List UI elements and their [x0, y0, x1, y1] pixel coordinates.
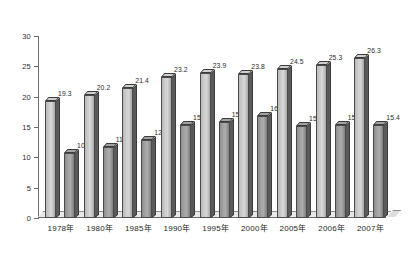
bar-side — [249, 70, 253, 218]
y-tick-mark — [34, 218, 39, 219]
value-label: 15.4 — [386, 114, 400, 121]
value-label: 19.3 — [58, 90, 72, 97]
bar-side — [327, 61, 331, 218]
bar-series-1-1985年: 21.4 — [122, 88, 133, 218]
bar-face — [180, 125, 191, 218]
x-axis-label: 1995年 — [202, 222, 229, 233]
bar-side — [95, 92, 99, 218]
bar-face — [200, 73, 211, 218]
value-label: 23.9 — [213, 62, 227, 69]
value-label: 24.5 — [290, 58, 304, 65]
y-tick-label: 20 — [22, 92, 31, 101]
value-label: 25.3 — [329, 54, 343, 61]
bar-group: 21.412.8 — [122, 36, 161, 218]
x-axis-label: 1990年 — [164, 222, 191, 233]
bar-face — [103, 147, 114, 218]
y-tick-label: 0 — [27, 214, 31, 223]
bar-series-1-2007年: 26.3 — [354, 58, 365, 218]
bar-series-2-2006年: 15.4 — [335, 125, 346, 218]
bar-series-2-2005年: 15.2 — [296, 126, 307, 218]
y-tick-mark — [34, 188, 39, 189]
bar-face — [257, 116, 268, 218]
y-tick-label: 30 — [22, 32, 31, 41]
bar-side — [56, 97, 60, 218]
bar-group: 23.816.8 — [238, 36, 277, 218]
bar-group: 25.315.4 — [316, 36, 355, 218]
bar-side — [211, 69, 215, 218]
bar-side — [172, 74, 176, 218]
bar-series-2-1995年: 15.8 — [219, 122, 230, 218]
bar-face — [161, 77, 172, 218]
bar-chart: 051015202530 19.310.720.211.721.412.823.… — [0, 0, 411, 256]
bar-series-1-1978年: 19.3 — [45, 101, 56, 218]
bar-face — [122, 88, 133, 218]
bar-series-1-1980年: 20.2 — [84, 95, 95, 218]
x-axis-label: 1985年 — [125, 222, 152, 233]
y-tick-label: 5 — [27, 183, 31, 192]
bar-series-2-2007年: 15.4 — [373, 125, 384, 218]
bar-series-1-2000年: 23.8 — [238, 74, 249, 218]
bar-face — [354, 58, 365, 218]
bar-series-2-1978年: 10.7 — [64, 153, 75, 218]
x-axis-label: 2007年 — [357, 222, 384, 233]
y-tick-mark — [34, 127, 39, 128]
x-axis-label: 1978年 — [48, 222, 75, 233]
bar-side — [268, 112, 272, 218]
bar-face — [316, 65, 327, 218]
y-tick-label: 10 — [22, 153, 31, 162]
bar-side — [191, 121, 195, 218]
bar-group: 19.310.7 — [45, 36, 84, 218]
bar-series-1-2006年: 25.3 — [316, 65, 327, 218]
bar-group: 20.211.7 — [84, 36, 123, 218]
bar-side — [133, 85, 137, 218]
bar-side — [230, 119, 234, 218]
bar-face — [141, 140, 152, 218]
bar-face — [64, 153, 75, 218]
bar-group: 24.515.2 — [277, 36, 316, 218]
bar-side — [384, 121, 388, 218]
bar-side — [365, 55, 369, 218]
y-tick-mark — [34, 97, 39, 98]
bar-series-1-1990年: 23.2 — [161, 77, 172, 218]
x-axis-label: 2005年 — [280, 222, 307, 233]
bar-side — [75, 149, 79, 218]
x-axis-label: 1980年 — [86, 222, 113, 233]
value-label: 26.3 — [367, 47, 381, 54]
y-tick-mark — [34, 36, 39, 37]
bar-side — [288, 66, 292, 218]
bar-face — [219, 122, 230, 218]
bar-group: 26.315.4 — [354, 36, 393, 218]
bar-series-1-1995年: 23.9 — [200, 73, 211, 218]
value-label: 20.2 — [97, 84, 111, 91]
bar-face — [296, 126, 307, 218]
bar-group: 23.215.4 — [161, 36, 200, 218]
y-tick-label: 15 — [22, 123, 31, 132]
x-axis-label: 2000年 — [241, 222, 268, 233]
y-tick-label: 25 — [22, 62, 31, 71]
bar-side — [152, 137, 156, 218]
y-tick-mark — [34, 157, 39, 158]
bar-series-2-2000年: 16.8 — [257, 116, 268, 218]
bar-face — [277, 69, 288, 218]
bar-face — [373, 125, 384, 218]
bar-face — [84, 95, 95, 218]
bar-side — [307, 122, 311, 218]
y-tick-mark — [34, 66, 39, 67]
bar-side — [346, 121, 350, 218]
bar-face — [238, 74, 249, 218]
bar-face — [45, 101, 56, 218]
bar-group: 23.915.8 — [200, 36, 239, 218]
bar-series-1-2005年: 24.5 — [277, 69, 288, 218]
bar-series-2-1990年: 15.4 — [180, 125, 191, 218]
bar-series-2-1985年: 12.8 — [141, 140, 152, 218]
bar-side — [114, 143, 118, 218]
value-label: 21.4 — [135, 77, 149, 84]
x-axis-label: 2006年 — [318, 222, 345, 233]
bar-face — [335, 125, 346, 218]
bar-series-2-1980年: 11.7 — [103, 147, 114, 218]
plot-area: 051015202530 19.310.720.211.721.412.823.… — [38, 36, 388, 218]
value-label: 23.8 — [251, 63, 265, 70]
value-label: 23.2 — [174, 66, 188, 73]
